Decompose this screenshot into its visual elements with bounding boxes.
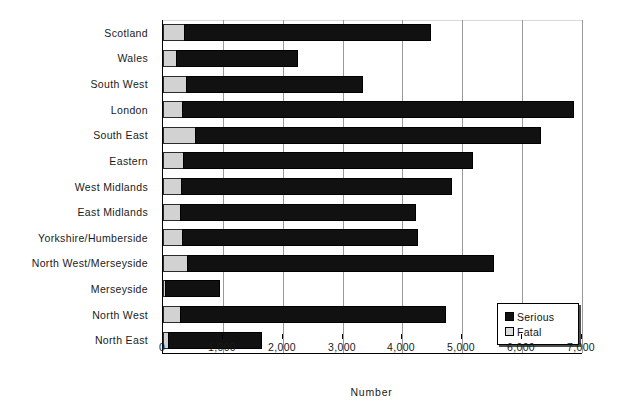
legend-item-fatal: Fatal xyxy=(505,324,571,339)
category-label: West Midlands xyxy=(0,181,148,193)
x-axis-tick xyxy=(282,334,283,339)
bar-segment-serious xyxy=(183,152,473,169)
bar-segment-fatal xyxy=(163,50,177,67)
category-label: Wales xyxy=(0,52,148,64)
bar-chart: ScotlandWalesSouth WestLondonSouth EastE… xyxy=(0,0,627,418)
bar-segment-fatal xyxy=(163,127,196,144)
bar-row xyxy=(163,306,446,323)
legend-label-serious: Serious xyxy=(517,311,554,323)
bar-row xyxy=(163,50,298,67)
bar-row xyxy=(163,229,418,246)
bar-segment-fatal xyxy=(163,24,185,41)
category-label: London xyxy=(0,104,148,116)
x-axis-tick-label: 5,000 xyxy=(447,341,475,353)
bar-segment-fatal xyxy=(163,178,182,195)
x-axis-tick-label: 7,000 xyxy=(567,341,595,353)
x-axis-tick-label: 0 xyxy=(159,341,165,353)
bar-row xyxy=(163,178,452,195)
bar-segment-serious xyxy=(187,255,494,272)
bar-row xyxy=(163,280,220,297)
bar-segment-serious xyxy=(180,204,416,221)
bar-row xyxy=(163,152,473,169)
bar-segment-serious xyxy=(176,50,298,67)
x-axis-title: Number xyxy=(162,386,581,398)
bar-segment-serious xyxy=(186,76,363,93)
x-axis-tick xyxy=(461,334,462,339)
legend-swatch-fatal-icon xyxy=(505,327,514,336)
x-axis-tick xyxy=(521,334,522,339)
bar-segment-fatal xyxy=(163,101,183,118)
category-label: South East xyxy=(0,129,148,141)
gridline xyxy=(462,20,463,353)
bar-row xyxy=(163,255,494,272)
category-axis-labels: ScotlandWalesSouth WestLondonSouth EastE… xyxy=(0,20,155,353)
bar-segment-serious xyxy=(182,101,574,118)
category-label: Scotland xyxy=(0,27,148,39)
legend-item-serious: Serious xyxy=(505,309,571,324)
category-label: Merseyside xyxy=(0,283,148,295)
category-label: North West xyxy=(0,309,148,321)
bar-segment-serious xyxy=(180,306,446,323)
bar-segment-serious xyxy=(184,24,431,41)
bar-segment-fatal xyxy=(163,229,183,246)
category-label: South West xyxy=(0,78,148,90)
category-label: North East xyxy=(0,334,148,346)
x-axis-tick xyxy=(401,334,402,339)
bar-row xyxy=(163,24,431,41)
bar-row xyxy=(163,127,541,144)
x-axis-tick-label: 3,000 xyxy=(328,341,356,353)
plot-top-edge xyxy=(163,20,582,21)
bar-row xyxy=(163,204,416,221)
x-axis-tick-label: 1,000 xyxy=(208,341,236,353)
bar-segment-serious xyxy=(195,127,541,144)
bar-row xyxy=(163,101,574,118)
x-axis-tick xyxy=(342,334,343,339)
bar-segment-fatal xyxy=(163,76,187,93)
legend-swatch-serious-icon xyxy=(505,312,514,321)
bar-row xyxy=(163,76,363,93)
bar-segment-fatal xyxy=(163,204,181,221)
bar-segment-fatal xyxy=(163,152,184,169)
chart-legend: Serious Fatal xyxy=(497,303,579,345)
x-axis-tick xyxy=(222,334,223,339)
x-axis-tick xyxy=(581,334,582,339)
category-label: East Midlands xyxy=(0,206,148,218)
bar-segment-serious xyxy=(182,229,418,246)
category-label: Eastern xyxy=(0,155,148,167)
category-label: Yorkshire/Humberside xyxy=(0,232,148,244)
x-axis-tick-label: 4,000 xyxy=(387,341,415,353)
x-axis-tick-label: 6,000 xyxy=(507,341,535,353)
gridline xyxy=(582,20,583,353)
bar-segment-serious xyxy=(165,280,220,297)
bar-segment-fatal xyxy=(163,306,181,323)
x-axis-tick xyxy=(162,334,163,339)
bar-segment-serious xyxy=(181,178,452,195)
bar-segment-fatal xyxy=(163,255,188,272)
x-axis-tick-label: 2,000 xyxy=(268,341,296,353)
category-label: North West/Merseyside xyxy=(0,257,148,269)
